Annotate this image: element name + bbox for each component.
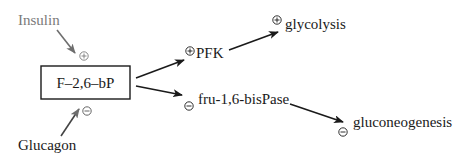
plus-icon — [186, 47, 194, 55]
regulation-diagram: Insulin F–2,6–bP Glucagon PFK glycolysis… — [0, 0, 469, 156]
minus-icon — [185, 102, 193, 110]
fbpase-to-gluconeogenesis-arrow — [290, 104, 343, 122]
glycolysis-label: glycolysis — [285, 16, 346, 32]
f26bp-to-pfk-arrow — [136, 60, 184, 78]
f26bp-to-fbpase-arrow — [136, 86, 182, 95]
pfk-to-glycolysis-arrow — [229, 32, 278, 50]
fbpase-label: fru-1,6-bisPase — [198, 91, 290, 107]
glucagon-arrow — [61, 109, 79, 136]
minus-icon — [83, 107, 91, 115]
glucagon-label: Glucagon — [18, 137, 77, 153]
gluconeogenesis-label: gluconeogenesis — [353, 114, 452, 130]
f26bp-label: F–2,6–bP — [57, 75, 115, 91]
insulin-arrow — [57, 30, 75, 53]
plus-icon — [273, 16, 281, 24]
pfk-label: PFK — [196, 45, 224, 61]
minus-icon — [339, 128, 347, 136]
insulin-label: Insulin — [18, 12, 60, 28]
plus-icon — [80, 52, 88, 60]
